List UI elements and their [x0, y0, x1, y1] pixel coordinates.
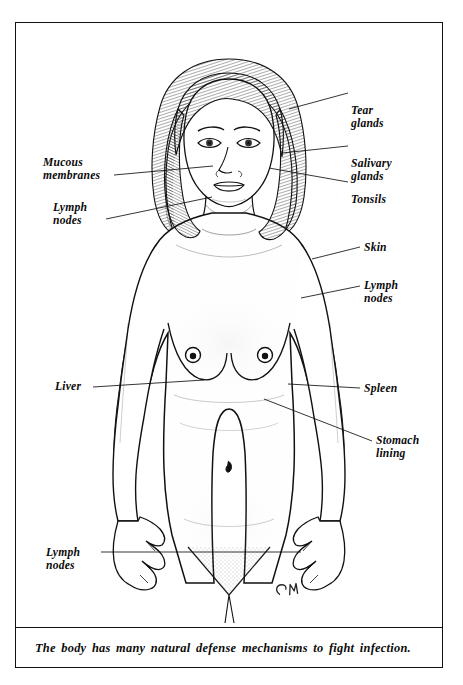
label-liver: Liver [55, 380, 81, 393]
label-lymph-nodes-neck: Lymph nodes [53, 201, 87, 228]
label-tear-glands: Tear glands [351, 104, 384, 131]
label-mucous-membranes: Mucous membranes [43, 156, 100, 183]
caption-bar: The body has many natural defense mechan… [16, 627, 442, 669]
illustration-frame: Tear glands Salivary glands Tonsils Skin… [15, 22, 443, 668]
label-salivary-glands: Salivary glands [351, 157, 392, 184]
label-tonsils: Tonsils [351, 193, 386, 206]
label-skin: Skin [364, 241, 387, 254]
label-lymph-nodes-right: Lymph nodes [364, 279, 398, 306]
label-stomach-lining: Stomach lining [376, 434, 419, 461]
label-spleen: Spleen [364, 382, 397, 395]
caption-text: The body has many natural defense mechan… [35, 641, 411, 656]
label-lymph-nodes-groin: Lymph nodes [46, 546, 80, 573]
